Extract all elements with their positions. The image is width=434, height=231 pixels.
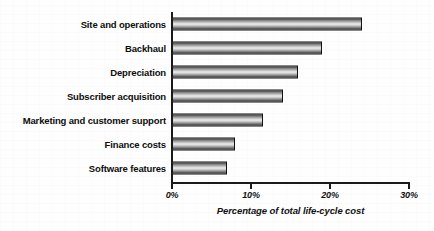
axis-tick-label-20: 20% (321, 190, 338, 200)
category-label: Finance costs (105, 139, 166, 150)
bar-row: Subscriber acquisition (0, 84, 434, 108)
bar-marketing-and-customer-support (172, 114, 263, 127)
bar-site-and-operations (172, 18, 362, 31)
value-axis-line (171, 182, 410, 184)
bar-row: Site and operations (0, 12, 434, 36)
bar-depreciation (172, 66, 298, 79)
axis-tick-label-10: 10% (242, 190, 259, 200)
category-label: Marketing and customer support (23, 115, 166, 126)
bar-track (172, 138, 235, 151)
category-label: Depreciation (110, 67, 166, 78)
axis-tick-20 (329, 184, 331, 189)
axis-tick-label-0: 0% (166, 190, 179, 200)
category-label: Software features (89, 163, 166, 174)
category-label: Subscriber acquisition (67, 91, 166, 102)
bar-track (172, 162, 227, 175)
axis-tick-label-30: 30% (400, 190, 417, 200)
chart-figure: Site and operations Backhaul Depreciatio… (0, 0, 434, 231)
bar-finance-costs (172, 138, 235, 151)
bar-track (172, 42, 322, 55)
bar-subscriber-acquisition (172, 90, 283, 103)
bar-row: Backhaul (0, 36, 434, 60)
category-label: Backhaul (125, 43, 166, 54)
category-axis-line (171, 12, 173, 184)
bar-track (172, 114, 263, 127)
bar-row: Depreciation (0, 60, 434, 84)
bar-row: Software features (0, 156, 434, 180)
bar-software-features (172, 162, 227, 175)
bar-track (172, 66, 298, 79)
bar-track (172, 18, 362, 31)
axis-tick-10 (250, 184, 252, 189)
bar-row: Finance costs (0, 132, 434, 156)
category-label: Site and operations (81, 19, 166, 30)
plot-area: Site and operations Backhaul Depreciatio… (0, 0, 434, 231)
bar-backhaul (172, 42, 322, 55)
axis-tick-0 (171, 184, 173, 189)
axis-caption: Percentage of total life-cycle cost (171, 205, 410, 216)
axis-tick-30 (408, 184, 410, 189)
bar-track (172, 90, 283, 103)
bar-row: Marketing and customer support (0, 108, 434, 132)
